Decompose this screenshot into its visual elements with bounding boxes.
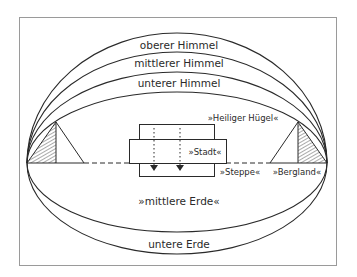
label-lower-heaven: unterer Himmel [138,77,221,89]
label-middle-heaven: mittlerer Himmel [134,57,224,69]
cosmology-diagram: oberer Himmel mittlerer Himmel unterer H… [0,0,357,277]
label-lower-earth: untere Erde [148,238,210,250]
label-steppe: »Steppe« [220,167,260,177]
label-middle-earth: »mittlere Erde« [138,195,219,207]
label-mountains: »Bergland« [273,167,321,177]
label-holy-hill: »Heiliger Hügel« [208,113,279,123]
label-upper-heaven: oberer Himmel [140,39,218,51]
label-city: »Stadt« [188,147,221,157]
